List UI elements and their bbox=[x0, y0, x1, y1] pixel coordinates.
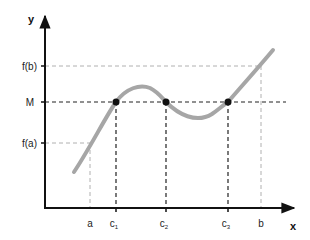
fa-label: f(a) bbox=[22, 138, 37, 149]
guide-lines-strong bbox=[45, 102, 286, 208]
x-axis-label: x bbox=[290, 220, 297, 232]
fb-label: f(b) bbox=[22, 61, 37, 72]
function-graph: y x f(b) M f(a) a c1 c2 c3 b bbox=[0, 0, 310, 240]
M-label: M bbox=[26, 97, 34, 108]
b-label: b bbox=[258, 218, 264, 229]
c2-label: c2 bbox=[160, 218, 169, 230]
guide-lines-light bbox=[45, 66, 262, 208]
point-c2 bbox=[163, 99, 170, 106]
point-c1 bbox=[113, 99, 120, 106]
point-c3 bbox=[225, 99, 232, 106]
y-axis-label: y bbox=[28, 13, 35, 25]
a-label: a bbox=[87, 218, 93, 229]
c1-label: c1 bbox=[110, 218, 119, 230]
c3-label: c3 bbox=[222, 218, 231, 230]
function-curve bbox=[74, 50, 273, 172]
axes bbox=[44, 16, 294, 208]
